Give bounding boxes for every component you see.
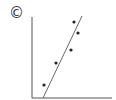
data-point [54,61,57,64]
data-point [72,20,75,23]
data-point [69,48,72,51]
scatter-plot [0,0,116,100]
data-point [42,83,45,86]
data-points [42,20,79,86]
trend-line [43,16,82,98]
data-point [76,31,79,34]
